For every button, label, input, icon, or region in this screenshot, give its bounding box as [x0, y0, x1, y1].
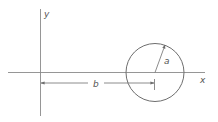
- radius-label: a: [164, 56, 170, 66]
- y-axis-label: y: [43, 9, 50, 19]
- diagram-canvas: y x a b: [0, 0, 218, 122]
- distance-label: b: [93, 79, 99, 89]
- x-axis-label: x: [199, 75, 206, 85]
